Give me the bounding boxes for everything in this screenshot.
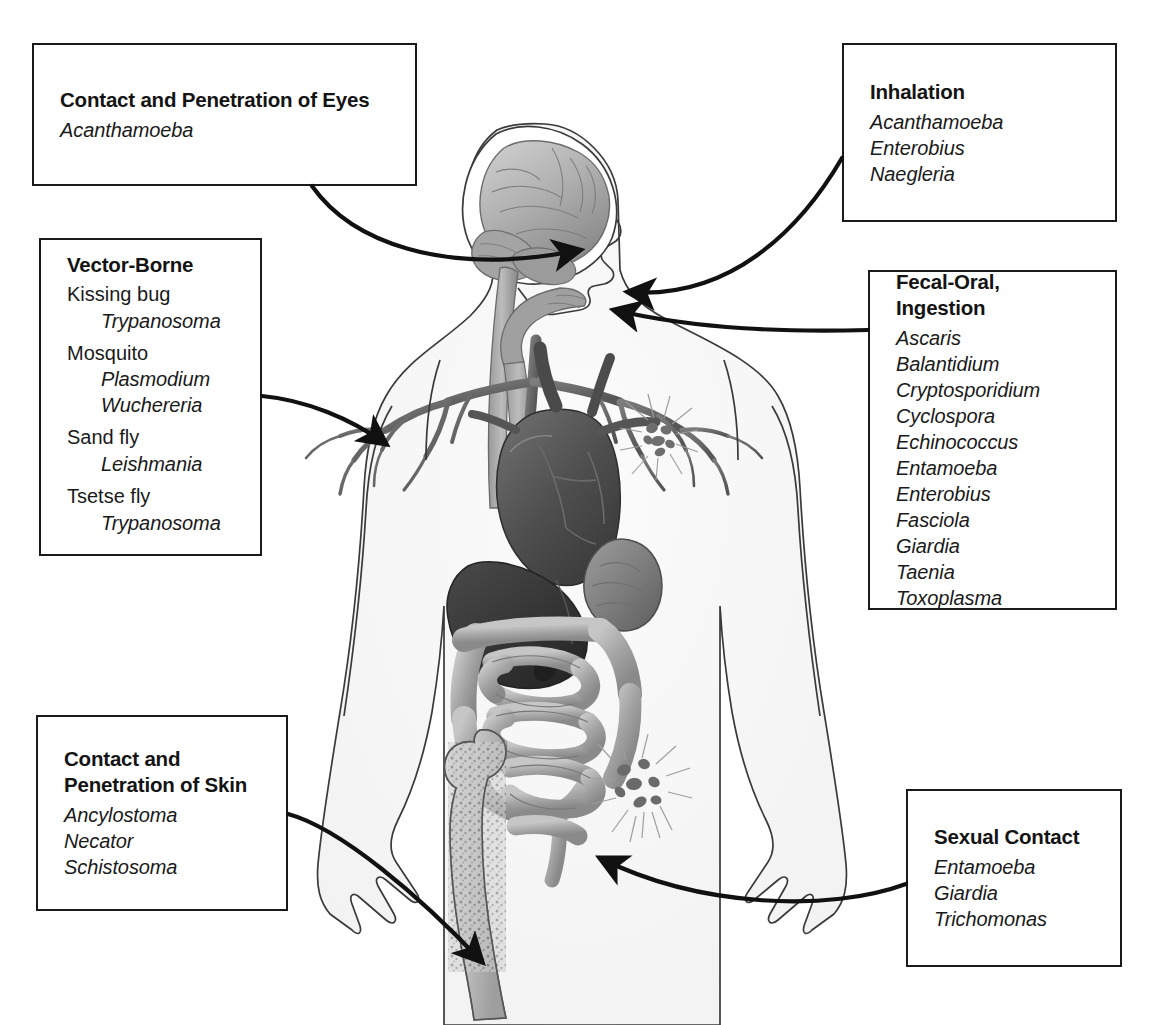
large-intestine xyxy=(464,628,631,880)
stomach-rugae xyxy=(600,563,640,572)
species-item: Necator xyxy=(64,828,260,854)
species-item: Echinococcus xyxy=(896,429,1089,455)
callout-title-fecal-oral: Fecal-Oral, Ingestion xyxy=(896,269,1089,321)
callout-title-vector-borne: Vector-Borne xyxy=(67,252,234,278)
vector-name: Sand fly xyxy=(67,425,234,451)
vector-group: Sand fly Leishmania xyxy=(67,425,234,477)
callout-title-sexual-contact: Sexual Contact xyxy=(934,824,1094,850)
arrow-vector-borne xyxy=(262,396,386,444)
callout-vector-borne[interactable]: Vector-Borne Kissing bug Trypanosoma Mos… xyxy=(39,238,262,556)
species-item: Trypanosoma xyxy=(67,509,234,535)
small-intestine xyxy=(488,656,597,836)
species-item: Taenia xyxy=(896,559,1089,585)
arrow-sexual-contact xyxy=(600,858,906,901)
species-item: Ascaris xyxy=(896,325,1089,351)
body-outline xyxy=(318,124,847,1025)
femur-trabeculae xyxy=(448,742,506,972)
arrow-skin xyxy=(288,814,482,962)
bronchial-tree xyxy=(306,340,762,494)
species-item: Giardia xyxy=(934,880,1094,906)
cerebellum xyxy=(472,230,537,280)
vector-name: Mosquito xyxy=(67,341,234,367)
species-item: Enterobius xyxy=(896,481,1089,507)
coronary-vessels xyxy=(540,446,604,544)
species-item: Toxoplasma xyxy=(896,585,1089,611)
gallbladder xyxy=(534,658,556,681)
face-profile xyxy=(463,126,621,314)
brain-gyri xyxy=(492,148,595,238)
vector-name: Kissing bug xyxy=(67,282,234,308)
species-item: Acanthamoeba xyxy=(60,117,389,143)
arrow-fecal-oral xyxy=(614,310,868,331)
parasite-cluster-chest xyxy=(620,394,698,480)
femur xyxy=(444,730,506,1020)
species-item: Wuchereria xyxy=(67,392,234,418)
species-item: Trichomonas xyxy=(934,906,1094,932)
callout-contact-penetration-skin[interactable]: Contact and Penetration of Skin Ancylost… xyxy=(36,715,288,911)
species-item: Leishmania xyxy=(67,451,234,477)
vector-group: Mosquito Plasmodium Wuchereria xyxy=(67,341,234,419)
pharynx-esophagus xyxy=(501,288,586,484)
species-list-fecal-oral: Ascaris Balantidium Cryptosporidium Cycl… xyxy=(896,325,1089,611)
species-item: Enterobius xyxy=(870,135,1089,161)
species-item: Fasciola xyxy=(896,507,1089,533)
heart xyxy=(472,348,656,586)
species-item: Trypanosoma xyxy=(67,308,234,334)
species-item: Naegleria xyxy=(870,161,1089,187)
temporal-lobe xyxy=(513,248,576,285)
callout-inhalation[interactable]: Inhalation Acanthamoeba Enterobius Naegl… xyxy=(842,43,1117,222)
species-item: Giardia xyxy=(896,533,1089,559)
transmission-routes-figure: Contact and Penetration of Eyes Acantham… xyxy=(0,0,1155,1025)
brain xyxy=(472,141,610,285)
body-silhouette xyxy=(318,124,847,1025)
callout-fecal-oral-ingestion[interactable]: Fecal-Oral, Ingestion Ascaris Balantidiu… xyxy=(868,270,1117,610)
small-intestine-detail xyxy=(492,656,590,809)
callout-title-skin: Contact and Penetration of Skin xyxy=(64,746,260,798)
skull-outline xyxy=(463,126,617,284)
species-item: Entamoeba xyxy=(934,854,1094,880)
species-item: Balantidium xyxy=(896,351,1089,377)
species-item: Acanthamoeba xyxy=(870,109,1089,135)
callout-sexual-contact[interactable]: Sexual Contact Entamoeba Giardia Trichom… xyxy=(906,789,1122,967)
arm-outlines xyxy=(344,360,820,716)
species-item: Ancylostoma xyxy=(64,802,260,828)
parasite-cluster-pelvis xyxy=(590,734,692,842)
vector-group: Tsetse fly Trypanosoma xyxy=(67,484,234,536)
liver xyxy=(447,562,587,689)
vector-group: Kissing bug Trypanosoma xyxy=(67,282,234,334)
callout-title-inhalation: Inhalation xyxy=(870,78,1089,104)
species-item: Cryptosporidium xyxy=(896,377,1089,403)
species-item: Schistosoma xyxy=(64,854,260,880)
callout-title-eyes: Contact and Penetration of Eyes xyxy=(60,86,389,112)
spinal-cord xyxy=(489,267,519,508)
species-list-sexual-contact: Entamoeba Giardia Trichomonas xyxy=(934,854,1094,932)
species-item: Plasmodium xyxy=(67,366,234,392)
stomach xyxy=(584,539,662,631)
species-list-inhalation: Acanthamoeba Enterobius Naegleria xyxy=(870,109,1089,187)
species-item: Entamoeba xyxy=(896,455,1089,481)
vector-groups: Kissing bug Trypanosoma Mosquito Plasmod… xyxy=(67,282,234,535)
arrow-inhalation xyxy=(628,158,842,293)
species-item: Cyclospora xyxy=(896,403,1089,429)
species-list-eyes: Acanthamoeba xyxy=(60,117,389,143)
vector-name: Tsetse fly xyxy=(67,484,234,510)
liver-lobe-line xyxy=(556,580,572,644)
facial-profile-line xyxy=(469,132,621,315)
arrow-eyes xyxy=(312,186,580,259)
species-list-skin: Ancylostoma Necator Schistosoma xyxy=(64,802,260,880)
callout-contact-penetration-eyes[interactable]: Contact and Penetration of Eyes Acantham… xyxy=(32,43,417,186)
